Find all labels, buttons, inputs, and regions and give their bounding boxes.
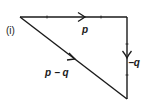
vector-p (20, 13, 127, 22)
label-p: p (81, 24, 88, 35)
vector-triangle-diagram: (i) p −q p − q (0, 0, 159, 103)
label-p-minus-q: p − q (44, 67, 69, 78)
label-minus-q: −q (128, 57, 140, 68)
vector-p-minus-q (20, 17, 127, 99)
part-label: (i) (6, 25, 15, 36)
